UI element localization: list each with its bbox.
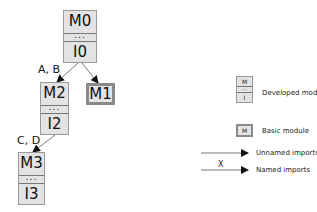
edge-label-ab: A, B [38, 63, 60, 76]
legend-unnamed-label: Unnamed imports [256, 149, 317, 157]
legend-basic-label: Basic module [262, 127, 309, 135]
edge-m0-m2 [57, 63, 78, 82]
edge-label-cd: C, D [17, 134, 40, 147]
module-m3-ellipsis: ... [19, 176, 44, 184]
module-m0[interactable]: M0 ... I0 [63, 10, 97, 63]
module-m3[interactable]: M3 ... I3 [18, 152, 45, 205]
module-m2[interactable]: M2 ... I2 [40, 82, 69, 135]
module-m1[interactable]: M1 [86, 83, 115, 105]
edge-m0-m1 [82, 63, 98, 83]
module-m2-interface: I2 [41, 114, 68, 134]
legend-named-symbol: X [218, 160, 223, 169]
legend-developed-label: Developed module [262, 89, 317, 97]
module-m0-ellipsis: ... [64, 34, 96, 42]
legend-developed-symbol: M ... I [236, 76, 253, 103]
legend-developed-bottom: I [237, 93, 252, 102]
module-m3-interface: I3 [19, 184, 44, 204]
module-m2-ellipsis: ... [41, 106, 68, 114]
legend-named-label: Named imports [256, 166, 310, 174]
module-m0-interface: I0 [64, 42, 96, 62]
legend-basic-symbol: M [236, 124, 253, 137]
